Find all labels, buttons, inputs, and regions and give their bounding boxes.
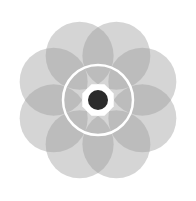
flower-rosette-figure (0, 0, 196, 201)
center-dot (88, 90, 108, 110)
petal-circle (46, 22, 114, 90)
